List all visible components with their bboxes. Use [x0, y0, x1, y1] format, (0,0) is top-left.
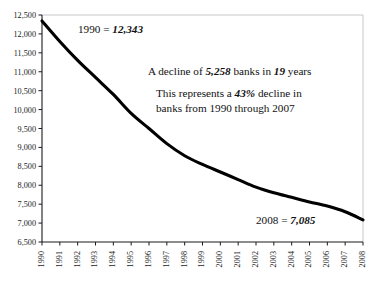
- x-tick-label: 2004: [287, 251, 296, 267]
- annotation-decline: A decline of 5,258 banks in 19 years: [148, 64, 311, 79]
- x-tick-label: 2007: [340, 251, 349, 267]
- x-tick-label: 1997: [162, 251, 171, 267]
- y-tick-label: 7,000: [18, 219, 36, 228]
- annotation-decline-part2: banks in: [231, 65, 274, 77]
- axis-lines: [42, 15, 363, 242]
- y-tick-label: 8,000: [18, 181, 36, 190]
- annotation-represents: This represents a 43% decline in banks f…: [156, 86, 302, 116]
- x-tick-label: 1992: [73, 251, 82, 267]
- annotation-first-value: 12,343: [112, 23, 143, 35]
- annotation-decline-part3: years: [285, 65, 311, 77]
- x-tick-label: 1991: [55, 251, 64, 267]
- x-tick-label: 1993: [90, 251, 99, 267]
- y-tick-label: 9,000: [18, 143, 36, 152]
- annotation-decline-value1: 5,258: [205, 65, 230, 77]
- y-tick-label: 10,500: [13, 87, 36, 96]
- x-tick-label: 2008: [358, 251, 367, 267]
- x-tick-label: 1996: [144, 251, 153, 267]
- x-tick-label: 2006: [322, 251, 331, 267]
- x-axis-tick-labels: 1990199119921993199419951996199719981999…: [37, 251, 367, 267]
- annotation-represents-line1: This represents a 43% decline in: [156, 86, 302, 101]
- x-tick-label: 1998: [180, 251, 189, 267]
- annotation-represents-part2: decline in: [255, 87, 302, 99]
- bank-decline-chart: 6,5007,0007,5008,0008,5009,0009,50010,00…: [0, 0, 375, 283]
- annotation-decline-part1: A decline of: [148, 65, 205, 77]
- y-tick-label: 12,000: [13, 30, 36, 39]
- x-tick-label: 1994: [108, 251, 117, 267]
- annotation-decline-value2: 19: [274, 65, 285, 77]
- annotation-last-value: 7,085: [290, 214, 315, 226]
- y-tick-label: 6,500: [18, 238, 36, 247]
- annotation-represents-line2: banks from 1990 through 2007: [156, 101, 302, 116]
- annotation-last-point: 2008 = 7,085: [256, 213, 315, 228]
- y-tick-label: 10,000: [13, 106, 36, 115]
- x-tick-label: 1990: [37, 251, 46, 267]
- x-tick-label: 2000: [215, 251, 224, 267]
- annotation-represents-value: 43%: [235, 87, 256, 99]
- x-tick-label: 2005: [304, 251, 313, 267]
- x-tick-label: 2003: [269, 251, 278, 267]
- plot-frame: [42, 15, 363, 242]
- y-tick-label: 11,500: [14, 49, 36, 58]
- annotation-first-prefix: 1990 =: [78, 23, 112, 35]
- series-line-number-of-banks: [42, 21, 363, 220]
- y-tick-label: 8,500: [18, 162, 36, 171]
- y-axis-tick-labels: 6,5007,0007,5008,0008,5009,0009,50010,00…: [13, 11, 36, 247]
- x-tick-label: 1995: [126, 251, 135, 267]
- annotation-represents-part1: This represents a: [156, 87, 235, 99]
- annotation-last-prefix: 2008 =: [256, 214, 290, 226]
- x-tick-label: 2001: [233, 251, 242, 267]
- x-tick-label: 1999: [197, 251, 206, 267]
- y-tick-label: 7,500: [18, 200, 36, 209]
- y-tick-label: 9,500: [18, 125, 36, 134]
- y-tick-label: 12,500: [13, 11, 36, 20]
- chart-canvas: 6,5007,0007,5008,0008,5009,0009,50010,00…: [0, 0, 375, 283]
- y-tick-label: 11,000: [14, 68, 36, 77]
- annotation-first-point: 1990 = 12,343: [78, 22, 143, 37]
- x-tick-label: 2002: [251, 251, 260, 267]
